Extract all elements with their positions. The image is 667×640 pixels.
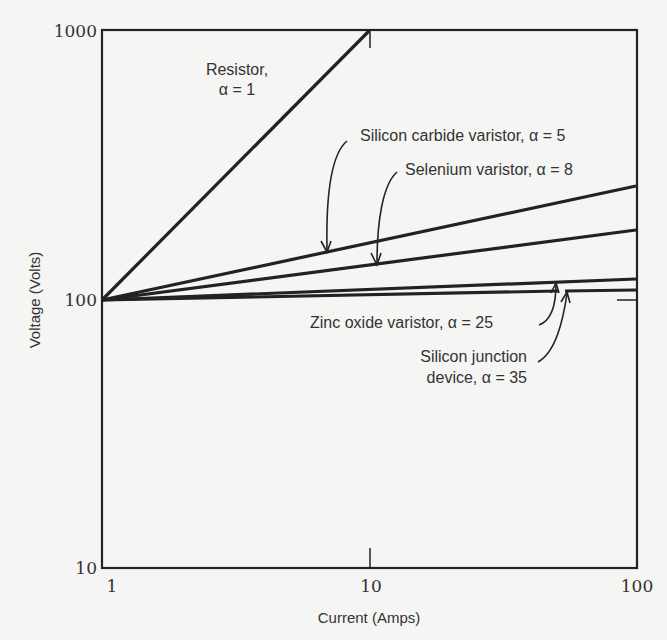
y-axis-label: Voltage (Volts) (26, 252, 43, 349)
arrow-selenium (377, 172, 397, 263)
annotation-silicon-junction-name: Silicon junction (420, 348, 527, 365)
x-axis-label: Current (Amps) (318, 609, 421, 626)
annotation-resistor-alpha: α = 1 (219, 81, 255, 98)
arrow-silicon-carbide (327, 141, 347, 250)
y-tick-label-100: 100 (65, 290, 97, 310)
x-tick-label-10: 10 (360, 576, 382, 596)
annotation-zinc-oxide: Zinc oxide varistor, α = 25 (310, 314, 493, 331)
x-tick-label-100: 100 (621, 576, 653, 596)
annotation-silicon-junction-alpha: device, α = 35 (427, 369, 528, 386)
arrow-silicon-junction (538, 294, 567, 362)
y-tick-label-1000: 1000 (54, 21, 97, 41)
chart: 1000 100 10 1 10 100 Current (Amps) Volt… (0, 0, 667, 640)
annotation-silicon-carbide: Silicon carbide varistor, α = 5 (360, 127, 565, 144)
line-silicon-junction-segment (565, 290, 636, 291)
x-tick-label-1: 1 (107, 576, 118, 596)
annotation-selenium: Selenium varistor, α = 8 (405, 161, 573, 178)
annotation-resistor-name: Resistor, (206, 61, 268, 78)
y-tick-label-10: 10 (75, 558, 97, 578)
